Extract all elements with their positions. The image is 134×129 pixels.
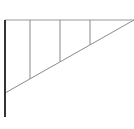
bracket-diagram: [0, 0, 134, 129]
diagonal-brace: [5, 20, 134, 93]
